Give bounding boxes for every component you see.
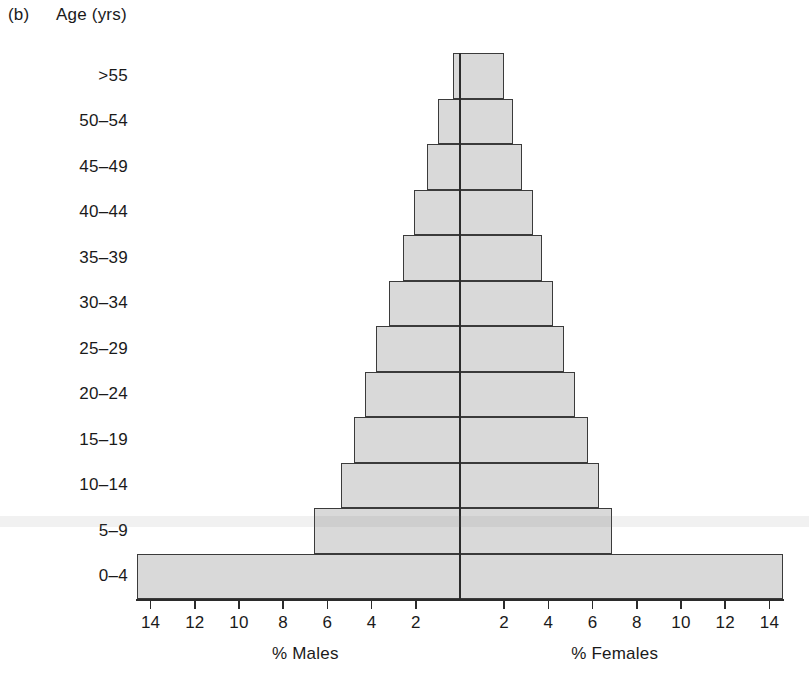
x-axis-caption-males: % Males: [272, 644, 339, 664]
x-axis-tick-right-4: [548, 600, 550, 609]
bar-males: [137, 554, 460, 600]
x-axis-tick-right-10: [680, 600, 682, 609]
population-pyramid-figure: (b) Age (yrs) >5550–5445–4940–4435–3930–…: [0, 0, 809, 677]
bar-females: [460, 326, 564, 372]
x-axis-tick-right-2: [503, 600, 505, 609]
x-axis-tick-label-left-8: 8: [278, 613, 288, 633]
x-axis-tick-label-right-4: 4: [544, 613, 554, 633]
x-axis-tick-label-right-6: 6: [588, 613, 598, 633]
bar-females: [460, 190, 533, 236]
x-axis-tick-label-left-14: 14: [141, 613, 160, 633]
bar-males: [427, 144, 460, 190]
x-axis-tick-right-12: [724, 600, 726, 609]
x-axis-tick-left-10: [238, 600, 240, 609]
bar-females: [460, 554, 783, 600]
bar-males: [376, 326, 460, 372]
bar-males: [341, 463, 460, 509]
bar-males: [314, 508, 460, 554]
x-axis-tick-label-right-12: 12: [716, 613, 735, 633]
center-axis-line: [459, 53, 461, 600]
x-axis-tick-label-left-4: 4: [367, 613, 377, 633]
bar-males: [414, 190, 460, 236]
x-axis-tick-left-8: [282, 600, 284, 609]
plot-area: 14121086422468101214% Males% Females: [0, 0, 809, 677]
bar-males: [438, 99, 460, 145]
bar-females: [460, 417, 588, 463]
bar-males: [365, 372, 460, 418]
x-axis-tick-label-right-2: 2: [499, 613, 509, 633]
x-axis-tick-label-right-14: 14: [760, 613, 779, 633]
x-axis-caption-females: % Females: [571, 644, 658, 664]
x-axis-tick-left-12: [194, 600, 196, 609]
x-axis-tick-label-left-12: 12: [185, 613, 204, 633]
bar-females: [460, 235, 542, 281]
bar-females: [460, 53, 504, 99]
bar-males: [354, 417, 460, 463]
x-axis-tick-label-right-8: 8: [632, 613, 642, 633]
x-axis-tick-label-left-6: 6: [323, 613, 333, 633]
bar-males: [389, 281, 460, 327]
bar-females: [460, 99, 513, 145]
x-axis-tick-left-6: [327, 600, 329, 609]
bar-females: [460, 508, 612, 554]
x-axis-tick-left-4: [371, 600, 373, 609]
x-axis-tick-left-14: [150, 600, 152, 609]
bar-females: [460, 463, 599, 509]
x-axis-tick-label-left-10: 10: [229, 613, 248, 633]
x-axis-tick-label-right-10: 10: [671, 613, 690, 633]
x-axis-tick-left-2: [415, 600, 417, 609]
x-axis-tick-right-8: [636, 600, 638, 609]
bar-females: [460, 372, 575, 418]
x-axis-tick-right-14: [769, 600, 771, 609]
x-axis-tick-right-6: [592, 600, 594, 609]
x-axis-baseline: [136, 599, 783, 601]
x-axis-tick-label-left-2: 2: [411, 613, 421, 633]
bar-females: [460, 144, 522, 190]
bar-males: [403, 235, 460, 281]
bar-females: [460, 281, 553, 327]
